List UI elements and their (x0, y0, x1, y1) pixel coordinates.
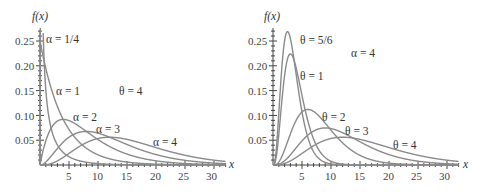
right-xtick: 15 (354, 170, 366, 182)
right-xtick: 30 (439, 170, 451, 182)
left-ytick: 0.20 (15, 60, 35, 72)
gamma-figure: f(x) x θ = 4 α = 1/4 α = 1 α = 2 α = 3 α… (0, 0, 480, 194)
left-label-alpha-quarter: α = 1/4 (46, 33, 79, 45)
left-chart: f(x) x θ = 4 α = 1/4 α = 1 α = 2 α = 3 α… (15, 10, 235, 182)
right-xtick: 25 (411, 170, 423, 182)
left-ytick: 0.10 (15, 110, 35, 122)
density-curve (273, 109, 459, 165)
density-curve (40, 131, 226, 165)
left-label-alpha-2: α = 2 (73, 111, 97, 123)
left-xtick: 10 (92, 170, 104, 182)
left-xtick: 20 (150, 170, 162, 182)
right-ytick: 0.10 (248, 110, 268, 122)
left-label-alpha-4: α = 4 (153, 136, 177, 148)
left-ytick: 0.15 (15, 85, 35, 97)
right-chart: f(x) x α = 4 θ = 5/6 θ = 1 θ = 2 θ = 3 θ… (248, 10, 469, 182)
left-xtick: 25 (178, 170, 190, 182)
right-xtick: 5 (299, 170, 305, 182)
right-ytick: 0.20 (248, 60, 268, 72)
right-alpha-note: α = 4 (351, 47, 375, 59)
right-ytick: 0.15 (248, 85, 268, 97)
right-xtick: 20 (383, 170, 395, 182)
right-xlabel: x (462, 158, 469, 170)
right-label-theta-3: θ = 3 (345, 125, 369, 137)
right-label-theta-2: θ = 2 (322, 111, 346, 123)
right-label-theta-1: θ = 1 (300, 70, 324, 82)
right-ytick: 0.05 (248, 134, 268, 146)
right-xtick: 10 (325, 170, 337, 182)
left-theta-note: θ = 4 (119, 85, 143, 97)
left-xtick: 5 (66, 170, 72, 182)
right-ytick: 0.25 (248, 35, 268, 47)
left-xtick: 15 (121, 170, 133, 182)
right-label-theta-4: θ = 4 (393, 139, 417, 151)
left-ytick: 0.25 (15, 35, 35, 47)
right-ylabel: f(x) (264, 10, 280, 23)
left-axis-ticks (36, 31, 226, 169)
left-xlabel: x (228, 158, 235, 170)
right-label-theta-5-6: θ = 5/6 (300, 34, 333, 46)
density-curve (40, 137, 226, 165)
left-label-alpha-1: α = 1 (56, 85, 80, 97)
left-xtick: 30 (206, 170, 218, 182)
left-label-alpha-3: α = 3 (96, 123, 120, 135)
left-ytick: 0.05 (15, 134, 35, 146)
left-ylabel: f(x) (32, 10, 48, 23)
